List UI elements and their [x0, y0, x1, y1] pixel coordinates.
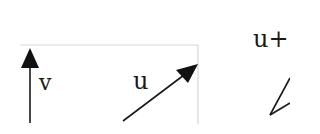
vector-v-label: v [39, 72, 51, 94]
vector-sum-partial [270, 78, 290, 115]
vector-sum-label: u+ [253, 27, 289, 51]
vector-u-label: u [133, 69, 148, 93]
vector-v-arrow [21, 48, 39, 123]
